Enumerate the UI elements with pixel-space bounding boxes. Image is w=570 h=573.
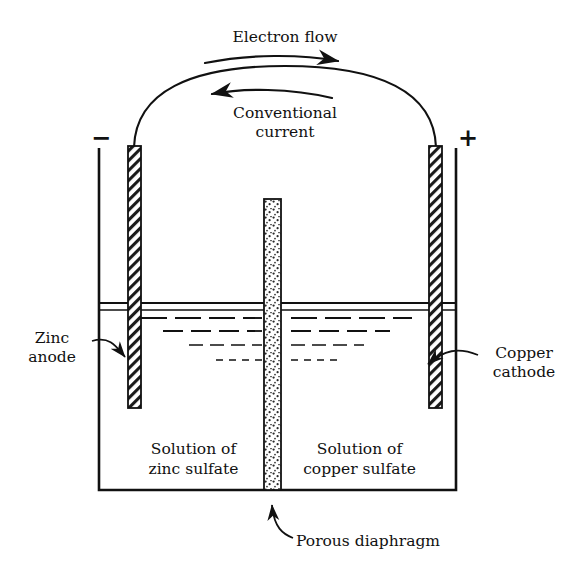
positive-terminal-sign: + xyxy=(455,126,481,150)
negative-terminal-sign: − xyxy=(88,126,114,150)
porous-diaphragm-label: Porous diaphragm xyxy=(296,532,486,550)
electron-flow-arrow-icon xyxy=(205,56,338,63)
conventional-current-label-line1: Conventional xyxy=(200,104,370,122)
porous-diaphragm xyxy=(264,199,281,490)
zinc-solution-dashes xyxy=(141,318,262,360)
copper-cathode-label-line1: Copper xyxy=(481,344,567,362)
porous-diaphragm-leader-arrow-icon xyxy=(272,505,293,538)
zinc-anode-label-line2: anode xyxy=(16,348,88,366)
electron-flow-label: Electron flow xyxy=(195,28,375,46)
zinc-solution-label-line1: Solution of xyxy=(126,440,261,458)
copper-cathode-electrode xyxy=(429,146,442,408)
zinc-anode-label-line1: Zinc xyxy=(16,329,88,347)
conventional-current-label-line2: current xyxy=(200,123,370,141)
copper-solution-dashes xyxy=(291,318,412,360)
daniell-cell-diagram: Electron flow Conventional current − + Z… xyxy=(0,0,570,573)
copper-solution-label-line1: Solution of xyxy=(287,440,432,458)
copper-solution-label-line2: copper sulfate xyxy=(287,460,432,478)
conventional-current-arrow-icon xyxy=(212,90,332,98)
diagram-vector-layer xyxy=(0,0,570,573)
zinc-anode-electrode xyxy=(128,146,141,408)
zinc-anode-leader-arrow-icon xyxy=(92,340,125,357)
copper-cathode-label-line2: cathode xyxy=(481,363,567,381)
zinc-solution-label-line2: zinc sulfate xyxy=(126,460,261,478)
